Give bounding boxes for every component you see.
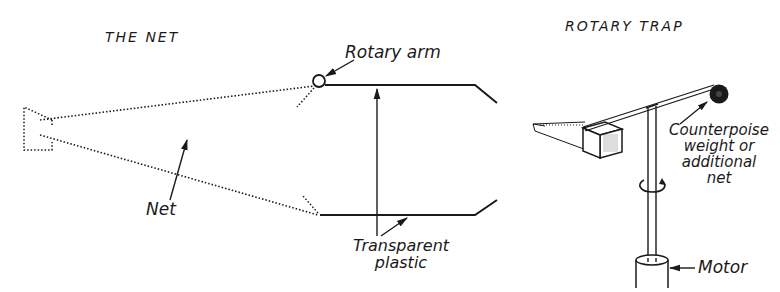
counterpoise-line3: additional bbox=[664, 154, 774, 170]
plastic-top-edge bbox=[325, 85, 497, 103]
net-upper-edge bbox=[40, 86, 314, 120]
plastic-leader bbox=[381, 218, 407, 236]
counterpoise-label: Counterpoise weight or additional net bbox=[664, 122, 774, 186]
motor-label: Motor bbox=[698, 259, 747, 276]
net-leader bbox=[170, 140, 187, 200]
net-tail-outline bbox=[24, 107, 52, 150]
net-panel-title: THE NET bbox=[105, 30, 179, 44]
net-label: Net bbox=[146, 201, 176, 218]
transparent-plastic-line1: Transparent bbox=[336, 237, 466, 254]
rotary-trap-title: ROTARY TRAP bbox=[565, 19, 684, 33]
trap-shaft bbox=[646, 104, 658, 258]
plastic-bottom-edge bbox=[320, 200, 497, 215]
transparent-plastic-line2: plastic bbox=[336, 254, 466, 271]
rotary-arm-leader bbox=[326, 60, 354, 76]
diagram-canvas: THE NET Rotary arm Net Transparent plast… bbox=[0, 0, 780, 292]
net-panel-drawing bbox=[24, 60, 497, 236]
transparent-plastic-label: Transparent plastic bbox=[336, 237, 466, 271]
counterpoise-line1: Counterpoise bbox=[664, 122, 774, 138]
rotary-arm-pivot bbox=[313, 75, 325, 87]
motor-housing bbox=[636, 255, 668, 288]
counterpoise-line4: net bbox=[664, 170, 774, 186]
rotary-arm-label: Rotary arm bbox=[345, 44, 441, 61]
net-lower-edge bbox=[40, 135, 318, 215]
counterpoise-line2: weight or bbox=[664, 138, 774, 154]
